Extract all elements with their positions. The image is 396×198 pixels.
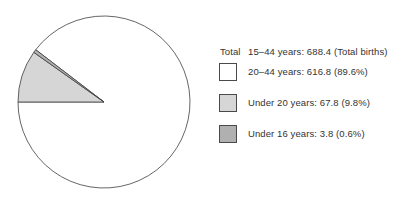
legend-row-20-44-years: 20–44 years: 616.8 (89.6%) xyxy=(219,63,368,81)
legend: Total 15–44 years: 688.4 (Total births) … xyxy=(0,0,396,198)
legend-label-20-44-years: 20–44 years: 616.8 (89.6%) xyxy=(248,66,368,78)
legend-total-label: Total xyxy=(220,46,248,58)
legend-total-row: Total 15–44 years: 688.4 (Total births) xyxy=(220,46,388,58)
legend-label-under-16-years: Under 16 years: 3.8 (0.6%) xyxy=(248,128,365,140)
legend-row-under-16-years: Under 16 years: 3.8 (0.6%) xyxy=(219,125,365,143)
legend-swatch-under-20-years xyxy=(219,94,237,112)
legend-label-under-20-years: Under 20 years: 67.8 (9.8%) xyxy=(248,97,370,109)
figure: Total 15–44 years: 688.4 (Total births) … xyxy=(0,0,396,198)
legend-swatch-20-44-years xyxy=(219,63,237,81)
legend-row-under-20-years: Under 20 years: 67.8 (9.8%) xyxy=(219,94,370,112)
legend-swatch-under-16-years xyxy=(219,125,237,143)
legend-total-text: 15–44 years: 688.4 (Total births) xyxy=(248,46,388,58)
